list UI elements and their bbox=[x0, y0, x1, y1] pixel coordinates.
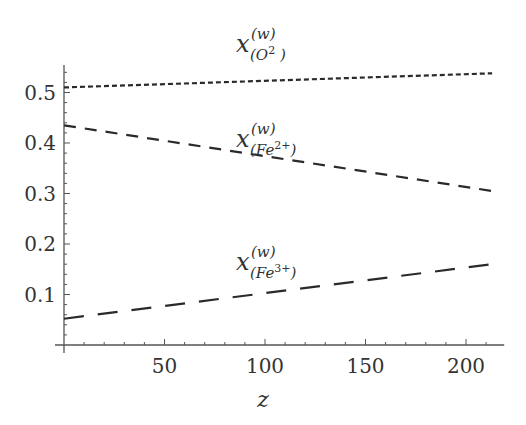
y-tick-label: 0.4 bbox=[24, 131, 56, 155]
series-lines bbox=[64, 73, 492, 318]
svg-text:(Fe2+): (Fe2+) bbox=[250, 139, 297, 159]
series-labels: x(w)(O2 )x(w)(Fe2+)x(w)(Fe3+) bbox=[236, 25, 297, 282]
svg-text:(w): (w) bbox=[251, 243, 276, 261]
svg-text:(Fe3+): (Fe3+) bbox=[250, 262, 297, 282]
svg-text:x: x bbox=[236, 125, 250, 153]
y-tick-label: 0.3 bbox=[24, 182, 56, 206]
axes: 501001502000.10.20.30.40.5z bbox=[24, 65, 504, 412]
svg-text:x: x bbox=[236, 30, 250, 58]
svg-text:x: x bbox=[236, 248, 250, 276]
y-tick-label: 0.2 bbox=[24, 232, 56, 256]
line-chart: 501001502000.10.20.30.40.5z x(w)(O2 )x(w… bbox=[0, 0, 526, 425]
series-label-1: x(w)(Fe2+) bbox=[236, 120, 297, 159]
x-axis-title: z bbox=[256, 387, 269, 412]
series-line-0 bbox=[64, 73, 492, 87]
x-tick-label: 150 bbox=[346, 354, 384, 378]
svg-text:(O2 ): (O2 ) bbox=[250, 44, 286, 64]
y-tick-label: 0.1 bbox=[24, 283, 56, 307]
y-tick-label: 0.5 bbox=[24, 81, 56, 105]
series-label-2: x(w)(Fe3+) bbox=[236, 243, 297, 282]
svg-text:(w): (w) bbox=[251, 25, 276, 43]
svg-text:(w): (w) bbox=[251, 120, 276, 138]
x-tick-label: 100 bbox=[246, 354, 284, 378]
series-line-1 bbox=[64, 125, 492, 191]
x-tick-label: 50 bbox=[152, 354, 177, 378]
x-tick-label: 200 bbox=[447, 354, 485, 378]
series-label-0: x(w)(O2 ) bbox=[236, 25, 286, 64]
